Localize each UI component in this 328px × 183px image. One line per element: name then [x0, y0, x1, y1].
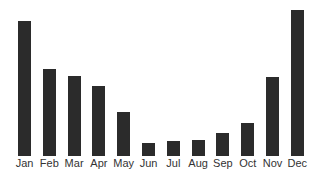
bar-nov	[266, 77, 279, 156]
bar-sep	[216, 133, 229, 156]
bar-feb	[43, 69, 56, 156]
bar-mar	[68, 76, 81, 156]
monthly-bar-chart: JanFebMarAprMayJunJulAugSepOctNovDec	[0, 0, 328, 183]
bar-jul	[167, 141, 180, 156]
bar-dec	[291, 10, 304, 156]
bar-apr	[92, 86, 105, 156]
bar-may	[117, 112, 130, 156]
bar-oct	[241, 123, 254, 156]
bar-aug	[192, 140, 205, 156]
x-tick-label: Dec	[282, 157, 312, 170]
bar-jan	[18, 21, 31, 156]
bar-jun	[142, 143, 155, 156]
